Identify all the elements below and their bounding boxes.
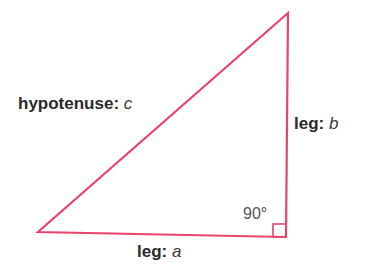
- right-angle-label: 90°: [243, 206, 267, 222]
- leg-a-variable: a: [172, 242, 181, 261]
- leg-b-variable: b: [329, 114, 338, 133]
- right-angle-marker: [273, 224, 286, 237]
- leg-b-label: leg: b: [294, 115, 338, 132]
- hypotenuse-term: hypotenuse:: [18, 94, 119, 113]
- hypotenuse-label: hypotenuse: c: [18, 95, 132, 112]
- leg-a-term: leg:: [137, 242, 167, 261]
- leg-b-term: leg:: [294, 114, 324, 133]
- triangle-graphic: [0, 0, 371, 277]
- leg-a-label: leg: a: [137, 243, 181, 260]
- triangle-outline: [38, 13, 288, 237]
- hypotenuse-variable: c: [124, 94, 133, 113]
- right-triangle-diagram: hypotenuse: c leg: b leg: a 90°: [0, 0, 371, 277]
